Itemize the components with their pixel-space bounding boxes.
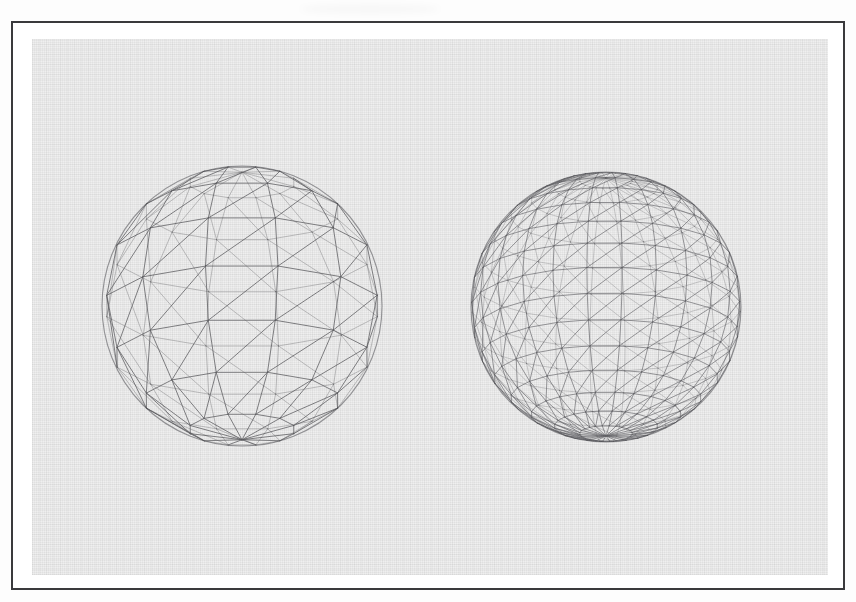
figure-paper-margin [13,23,843,588]
figure-frame [11,21,845,590]
fine-sphere-wireframe [32,39,828,575]
figure-page: Wireframe sphere tessellation comparison [0,0,856,602]
render-canvas [32,39,828,575]
page-smudge-top [300,4,440,14]
